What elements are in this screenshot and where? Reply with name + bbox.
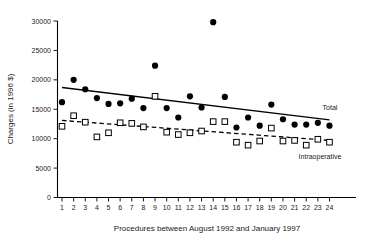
series-labels-group: TotalIntraoperative	[299, 104, 342, 161]
x-axis-title: Procedures between August 1992 and Janua…	[114, 224, 301, 233]
x-tick-label: 9	[153, 204, 157, 211]
data-point-intraoperative	[315, 136, 321, 142]
x-tick-label: 19	[267, 204, 275, 211]
x-tick-label: 2	[72, 204, 76, 211]
y-tick-label: 10000	[32, 135, 52, 142]
data-point-intraoperative	[117, 120, 123, 126]
data-point-total	[94, 95, 100, 101]
data-point-total	[233, 124, 239, 130]
data-point-total	[280, 116, 286, 122]
data-point-total	[152, 63, 158, 69]
data-point-total	[210, 19, 216, 25]
y-tick-label: 0	[47, 194, 51, 201]
data-point-intraoperative	[82, 119, 88, 125]
x-tick-group: 123456789101112131415161718192021222324	[60, 198, 333, 211]
x-tick-label: 11	[175, 204, 182, 211]
data-point-intraoperative	[129, 121, 135, 127]
y-tick-label: 15000	[32, 106, 52, 113]
data-point-total	[222, 94, 228, 100]
data-point-total	[105, 101, 111, 107]
data-point-intraoperative	[187, 130, 193, 136]
data-point-total	[303, 121, 309, 127]
data-point-intraoperative	[176, 132, 182, 138]
x-tick-label: 1	[60, 204, 64, 211]
data-point-total	[175, 114, 181, 120]
x-tick-label: 22	[302, 204, 310, 211]
y-tick-group: 050001000015000200002500030000	[32, 18, 58, 202]
x-tick-label: 3	[83, 204, 87, 211]
data-point-intraoperative	[292, 138, 298, 144]
data-point-intraoperative	[164, 129, 170, 135]
data-point-intraoperative	[106, 130, 112, 136]
data-point-intraoperative	[280, 138, 286, 144]
data-point-total	[129, 96, 135, 102]
x-tick-label: 24	[326, 204, 334, 211]
data-point-intraoperative	[199, 128, 205, 134]
data-point-total	[268, 101, 274, 107]
data-point-total	[82, 86, 88, 92]
data-point-total	[71, 77, 77, 83]
y-axis: 050001000015000200002500030000	[32, 18, 58, 202]
x-tick-label: 10	[163, 204, 171, 211]
x-tick-label: 6	[118, 204, 122, 211]
data-point-intraoperative	[94, 134, 100, 140]
x-tick-label: 12	[186, 204, 194, 211]
data-point-intraoperative	[303, 142, 309, 148]
data-point-total	[164, 105, 170, 111]
x-tick-label: 4	[95, 204, 99, 211]
data-point-total	[257, 123, 263, 129]
data-point-intraoperative	[59, 124, 65, 130]
series-label-total: Total	[323, 104, 338, 111]
data-point-intraoperative	[141, 124, 147, 130]
data-point-intraoperative	[234, 139, 240, 145]
x-tick-label: 17	[244, 204, 252, 211]
charges-scatter-chart: 050001000015000200002500030000 123456789…	[0, 0, 365, 238]
y-tick-label: 25000	[32, 47, 52, 54]
data-points-group	[59, 19, 333, 148]
data-point-intraoperative	[222, 119, 228, 125]
data-point-total	[187, 93, 193, 99]
data-point-intraoperative	[327, 139, 333, 145]
data-point-total	[315, 120, 321, 126]
x-tick-label: 13	[198, 204, 206, 211]
chart-canvas: 050001000015000200002500030000 123456789…	[0, 0, 365, 238]
x-tick-label: 7	[130, 204, 134, 211]
data-point-total	[117, 100, 123, 106]
data-point-intraoperative	[71, 113, 77, 119]
y-tick-label: 20000	[32, 76, 52, 83]
x-tick-label: 8	[141, 204, 145, 211]
x-tick-label: 5	[107, 204, 111, 211]
data-point-total	[292, 121, 298, 127]
trend-line-total	[62, 87, 329, 119]
data-point-intraoperative	[269, 125, 275, 131]
data-point-total	[59, 99, 65, 105]
y-tick-label: 30000	[32, 18, 52, 25]
x-tick-label: 20	[279, 204, 287, 211]
y-tick-label: 5000	[35, 165, 51, 172]
series-label-intraoperative: Intraoperative	[299, 153, 342, 161]
x-tick-label: 14	[209, 204, 217, 211]
x-tick-label: 21	[291, 204, 299, 211]
x-tick-label: 15	[221, 204, 229, 211]
x-tick-label: 16	[233, 204, 241, 211]
data-point-intraoperative	[152, 94, 158, 100]
trend-line-intraoperative	[62, 120, 329, 140]
data-point-intraoperative	[210, 119, 216, 125]
data-point-total	[140, 105, 146, 111]
data-point-total	[245, 114, 251, 120]
y-axis-title: Charges (in 1996 $)	[6, 73, 15, 144]
x-tick-label: 18	[256, 204, 264, 211]
trend-lines-group	[62, 87, 329, 140]
x-axis: 123456789101112131415161718192021222324	[58, 198, 357, 211]
data-point-total	[326, 123, 332, 129]
x-tick-label: 23	[314, 204, 322, 211]
data-point-intraoperative	[257, 138, 263, 144]
data-point-total	[198, 104, 204, 110]
data-point-intraoperative	[245, 142, 251, 148]
